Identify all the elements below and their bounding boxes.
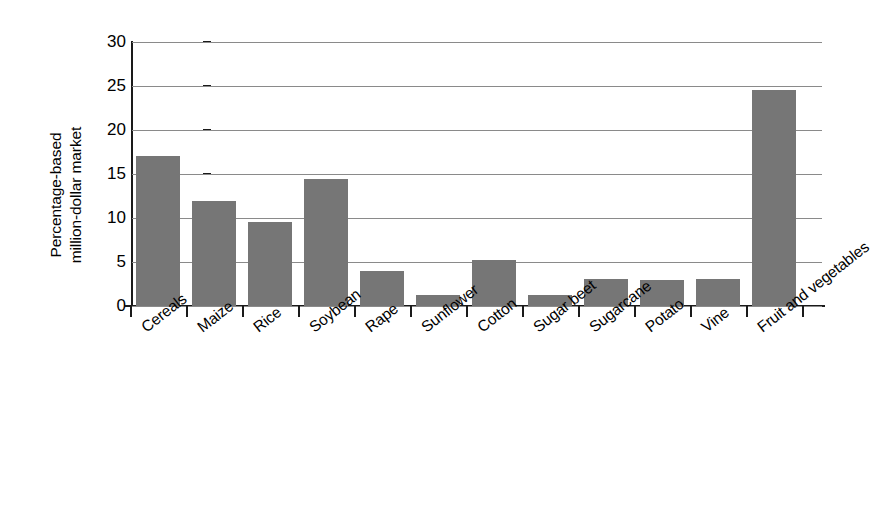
- bar-rice: [248, 222, 292, 306]
- y-tick-label-5: 5: [86, 253, 126, 270]
- y-tick-label-10: 10: [86, 209, 126, 226]
- x-axis-label-vine: Vine: [698, 304, 732, 336]
- gridline-30: [132, 42, 822, 43]
- gridline-20: [132, 130, 822, 131]
- bar-maize: [192, 201, 236, 306]
- x-tick-mark-8: [578, 306, 580, 317]
- y-tick-label-30: 30: [86, 33, 126, 50]
- x-tick-mark-end: [802, 306, 804, 317]
- x-tick-mark-7: [522, 306, 524, 317]
- x-tick-mark-4: [354, 306, 356, 317]
- x-tick-mark-9: [634, 306, 636, 317]
- x-tick-mark-10: [690, 306, 692, 317]
- x-tick-mark-1: [186, 306, 188, 317]
- x-tick-mark-5: [410, 306, 412, 317]
- bar-soybean: [304, 179, 348, 306]
- y-tick-label-20: 20: [86, 121, 126, 138]
- y-tick-label-25: 25: [86, 77, 126, 94]
- bar-cereals: [136, 156, 180, 306]
- x-axis-label-rice: Rice: [250, 303, 284, 335]
- y-tick-label-0: 0: [86, 297, 126, 314]
- x-tick-mark-11: [746, 306, 748, 317]
- y-axis-tick-labels: 051015202530: [78, 42, 126, 306]
- gridline-25: [132, 86, 822, 87]
- bar-rape: [360, 271, 404, 306]
- x-tick-mark-6: [466, 306, 468, 317]
- plot-area: [132, 42, 822, 306]
- bar-fruit-and-vegetables: [752, 90, 796, 306]
- y-axis-title-line-1: Percentage-based: [46, 132, 66, 257]
- x-tick-mark-0: [130, 306, 132, 317]
- y-tick-label-15: 15: [86, 165, 126, 182]
- gridline-15: [132, 174, 822, 175]
- bar-vine: [696, 279, 740, 306]
- x-tick-mark-3: [298, 306, 300, 317]
- x-tick-mark-2: [242, 306, 244, 317]
